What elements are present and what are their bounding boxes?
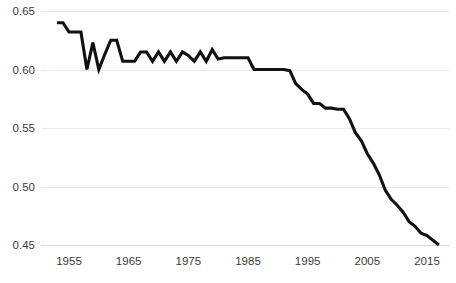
x-tick-label: 1975 [176, 255, 202, 267]
y-tick-label: 0.65 [13, 5, 35, 17]
x-tick-label: 1985 [235, 255, 261, 267]
y-tick-label: 0.50 [13, 181, 35, 193]
x-tick-label: 1955 [56, 255, 82, 267]
chart-container: 0.650.600.550.500.45 1955196519751985199… [0, 0, 456, 283]
x-axis-tick-labels: 1955196519751985199520052015 [56, 255, 440, 267]
series-line [57, 23, 439, 245]
gridlines-group [41, 12, 449, 246]
x-tick-label: 2015 [414, 255, 440, 267]
line-chart: 0.650.600.550.500.45 1955196519751985199… [0, 0, 456, 283]
y-tick-label: 0.55 [13, 122, 35, 134]
y-tick-label: 0.60 [13, 64, 35, 76]
y-axis-tick-labels: 0.650.600.550.500.45 [13, 5, 35, 251]
x-tick-label: 1965 [116, 255, 142, 267]
series-group [57, 23, 439, 245]
x-tick-label: 2005 [355, 255, 381, 267]
x-tick-label: 1995 [295, 255, 321, 267]
y-tick-label: 0.45 [13, 239, 35, 251]
